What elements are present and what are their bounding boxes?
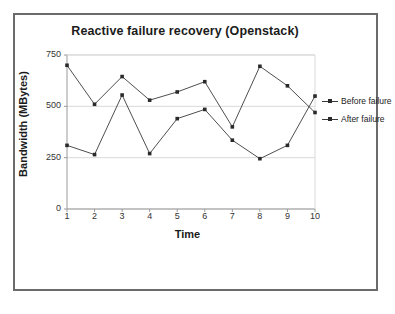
data-point-marker: [93, 153, 97, 157]
x-axis-title: Time: [60, 228, 315, 240]
y-tick-label: 250: [27, 152, 61, 162]
y-tick-label: 500: [27, 100, 61, 110]
chart-legend: Before failure After failure: [322, 92, 394, 128]
x-tick-label: 7: [222, 211, 242, 221]
data-point-marker: [93, 102, 97, 106]
x-tick-label: 1: [57, 211, 77, 221]
data-point-marker: [258, 64, 262, 68]
x-tick-label: 9: [277, 211, 297, 221]
data-point-marker: [175, 117, 179, 121]
x-tick-label: 5: [167, 211, 187, 221]
legend-marker-icon: [322, 97, 338, 105]
data-point-marker: [313, 94, 317, 98]
data-point-marker: [148, 98, 152, 102]
plot-background: [67, 55, 315, 209]
data-point-marker: [258, 157, 262, 161]
data-point-marker: [65, 63, 69, 67]
x-tick-label: 4: [140, 211, 160, 221]
x-tick-label: 3: [112, 211, 132, 221]
data-point-marker: [286, 84, 290, 88]
x-tick-label: 10: [305, 211, 325, 221]
legend-label: After failure: [341, 114, 384, 124]
data-point-marker: [148, 152, 152, 156]
data-point-marker: [175, 90, 179, 94]
legend-item-before-failure[interactable]: Before failure: [322, 92, 394, 110]
x-tick-label: 8: [250, 211, 270, 221]
data-point-marker: [313, 111, 317, 115]
legend-label: Before failure: [341, 96, 392, 106]
x-tick-label: 2: [85, 211, 105, 221]
data-point-marker: [120, 93, 124, 97]
data-point-marker: [65, 144, 69, 148]
data-point-marker: [120, 75, 124, 79]
x-tick-label: 6: [195, 211, 215, 221]
y-tick-label: 0: [27, 203, 61, 213]
y-tick-label: 750: [27, 49, 61, 59]
chart-title: Reactive failure recovery (Openstack): [40, 24, 330, 38]
data-point-marker: [286, 144, 290, 148]
data-point-marker: [203, 80, 207, 84]
y-axis-title: Bandwidth (MBytes): [17, 64, 29, 184]
data-point-marker: [203, 108, 207, 112]
data-point-marker: [231, 125, 235, 129]
legend-marker-icon: [322, 115, 338, 123]
legend-item-after-failure[interactable]: After failure: [322, 110, 394, 128]
data-point-marker: [231, 138, 235, 142]
